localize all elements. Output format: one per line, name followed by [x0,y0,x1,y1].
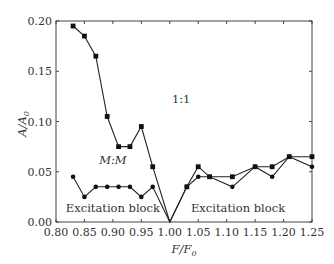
square-marker [230,174,235,179]
square-marker [270,164,275,169]
annotation-label: M:M [98,153,128,167]
annotation-label: Excitation block [191,201,286,215]
square-marker [196,164,201,169]
x-tick-label: 1.25 [300,226,325,239]
circle-marker [196,174,201,179]
x-tick-label: 0.90 [101,226,126,239]
circle-marker [94,185,99,190]
square-marker [139,124,144,129]
circle-marker [128,185,133,190]
square-marker [71,24,76,29]
square-marker [128,144,133,149]
y-tick-label: 0.00 [28,216,53,229]
square-marker [150,164,155,169]
circle-marker [139,195,144,200]
x-axis-title: F/F0 [171,242,197,258]
annotation-label: Excitation block [66,201,161,215]
square-marker [82,34,87,39]
series-1-1 [71,24,315,222]
circle-marker [150,185,155,190]
x-tick-label: 1.15 [243,226,268,239]
series-layer [71,24,315,222]
circle-marker [116,185,121,190]
circle-marker [185,185,190,190]
x-tick-label: 1.00 [158,226,183,239]
circle-marker [207,174,212,179]
circle-marker [230,185,235,190]
y-tick-label: 0.15 [28,65,53,78]
circle-marker [287,154,292,159]
chart: 0.800.850.900.951.001.051.101.151.201.25… [0,0,334,264]
y-tick-label: 0.20 [28,15,53,28]
annotation-label: 1:1 [172,92,191,106]
circle-marker [270,174,275,179]
circle-marker [310,164,315,169]
x-tick-label: 0.85 [72,226,97,239]
square-marker [116,144,121,149]
y-tick-label: 0.10 [28,116,53,129]
x-tick-label: 0.95 [129,226,154,239]
circle-marker [82,195,87,200]
y-tick-label: 0.05 [28,166,53,179]
annotations: 1:1M:MExcitation blockExcitation block [66,92,286,215]
y-axis-title: A/A0 [15,111,31,138]
x-tick-label: 1.05 [186,226,211,239]
square-marker [93,54,98,59]
circle-marker [105,185,110,190]
circle-marker [253,164,258,169]
x-tick-label: 1.20 [271,226,296,239]
series-line [73,26,312,222]
circle-marker [71,174,76,179]
x-tick-label: 1.10 [214,226,239,239]
square-marker [105,114,110,119]
square-marker [310,154,315,159]
